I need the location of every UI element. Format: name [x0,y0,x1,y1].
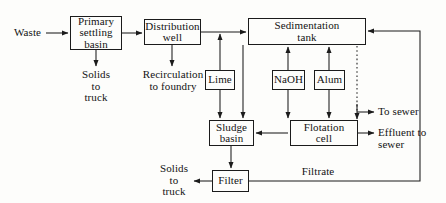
node-sludge-basin[interactable]: Sludge basin [209,120,254,146]
node-label: Sludge basin [216,122,247,145]
label-to-sewer: To sewer [378,106,442,118]
label-waste: Waste [14,27,54,39]
node-distribution-well[interactable]: Distribution well [144,19,201,45]
node-alum[interactable]: Alum [314,70,345,90]
label-solids-to-truck-primary: Solids to truck [74,69,118,104]
node-naoh[interactable]: NaOH [272,70,305,90]
node-label: Filter [218,175,242,187]
process-flow-diagram: Primary settling basin Distribution well… [0,0,446,203]
node-label: Sedimentation tank [275,20,340,43]
node-label: Primary settling basin [78,16,114,51]
node-label: Flotation cell [304,122,345,145]
node-label: Lime [208,74,232,86]
node-label: Alum [317,74,342,86]
node-sedimentation-tank[interactable]: Sedimentation tank [248,18,366,45]
label-recirculation-to-foundry: Recirculation to foundry [136,69,210,92]
label-filtrate: Filtrate [294,166,342,178]
label-effluent-to-sewer: Effluent to sewer [378,127,442,150]
node-primary-settling-basin[interactable]: Primary settling basin [70,16,122,50]
node-flotation-cell[interactable]: Flotation cell [290,120,358,146]
node-label: NaOH [274,74,303,86]
node-filter[interactable]: Filter [212,170,249,192]
label-solids-to-truck-filter: Solids to truck [152,163,196,198]
node-label: Distribution well [145,21,199,44]
